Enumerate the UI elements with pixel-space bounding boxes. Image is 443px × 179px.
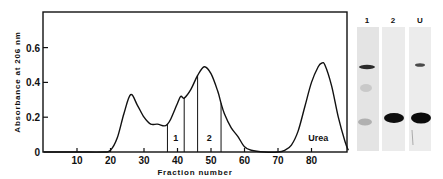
x-axis-title: Fraction number [157,168,232,177]
peak-label: 1 [173,133,178,143]
gel-band-lane1-smear [360,84,372,92]
y-axis: 00.20.40.6 [26,43,48,158]
x-tick-label: 30 [138,155,150,166]
chromatogram-chart: 00.20.40.6 1020304050607080 12Urea Fract… [0,0,443,179]
y-axis-title: Absorbance at 206 nm [13,31,22,132]
gel-lane-label-2: 2 [391,16,396,25]
peak-label: Urea [308,133,329,143]
x-tick-label: 50 [205,155,217,166]
y-tick-label: 0 [34,147,40,158]
x-axis: 1020304050607080 [71,148,317,166]
gel-lane-2 [382,27,405,151]
gel-lane-label-u: U [417,16,423,25]
gel-band-lane1-lower [358,119,372,126]
peak-label: 2 [207,133,212,143]
x-tick-label: 10 [71,155,83,166]
y-tick-label: 0.2 [26,112,40,123]
x-tick-label: 70 [272,155,284,166]
y-tick-label: 0.4 [26,77,40,88]
y-tick-label: 0.6 [26,43,40,54]
gel-band-lane2 [384,113,404,123]
peak-annotations: 12Urea [173,133,329,143]
gel-lane-label-1: 1 [365,16,370,25]
x-tick-label: 80 [306,155,318,166]
x-tick-label: 40 [172,155,184,166]
x-tick-label: 60 [239,155,251,166]
gel-electrophoresis-panel: 1 2 U [357,16,431,151]
x-tick-label: 20 [105,155,117,166]
gel-band-laneU-upper [415,63,425,67]
gel-band-laneU-lower [411,113,431,124]
absorbance-curve [44,63,349,153]
gel-band-lane1-upper [359,65,375,69]
